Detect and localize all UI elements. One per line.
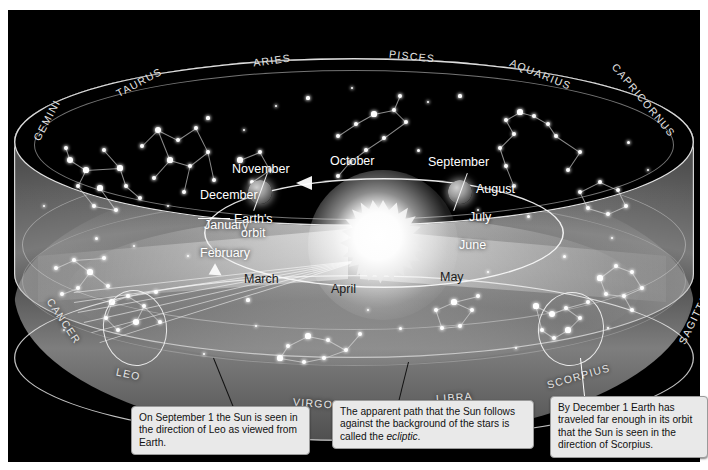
month-label-april: April	[331, 282, 356, 296]
star	[277, 355, 282, 360]
star	[87, 269, 92, 274]
month-label-september: September	[428, 155, 489, 169]
caption-scorpius-text: By December 1 Earth has traveled far eno…	[558, 402, 692, 450]
star	[597, 275, 602, 280]
caption-ecliptic-text-a: The apparent path that the Sun follows a…	[340, 406, 515, 442]
astronomy-diagram: GEMINI TAURUS ARIES PISCES AQUARIUS CAPR…	[8, 10, 700, 462]
star	[640, 286, 644, 290]
month-label-august: August	[476, 182, 515, 196]
star	[546, 122, 550, 126]
month-label-may: May	[440, 270, 464, 284]
star	[140, 144, 144, 148]
month-label-november: November	[232, 162, 290, 176]
month-label-march: March	[244, 272, 279, 286]
star	[322, 356, 326, 360]
star	[336, 174, 340, 178]
caption-ecliptic-term: ecliptic	[386, 431, 417, 442]
star	[155, 127, 161, 133]
star	[95, 237, 98, 240]
caption-leo-text: On September 1 the Sun is seen in the di…	[139, 412, 298, 448]
orbit-direction-arrow-top	[296, 176, 312, 190]
star	[417, 149, 420, 152]
star	[630, 308, 634, 312]
star	[92, 204, 96, 208]
star	[138, 196, 142, 200]
star	[399, 327, 402, 330]
star	[60, 292, 64, 296]
star	[64, 146, 68, 150]
caption-leo: On September 1 the Sun is seen in the di…	[131, 406, 310, 455]
star	[182, 190, 186, 194]
star	[566, 168, 570, 172]
figure-root: GEMINI TAURUS ARIES PISCES AQUARIUS CAPR…	[0, 0, 708, 470]
star	[451, 299, 456, 304]
month-label-july: July	[469, 210, 491, 224]
star	[97, 185, 102, 190]
month-label-february: February	[200, 246, 250, 260]
star	[117, 165, 122, 170]
star	[382, 136, 386, 140]
star	[458, 94, 461, 97]
month-label-december: December	[200, 188, 258, 202]
caption-scorpius: By December 1 Earth has traveled far eno…	[550, 396, 708, 458]
star	[306, 96, 309, 99]
caption-ecliptic: The apparent path that the Sun follows a…	[332, 400, 534, 449]
month-label-june: June	[459, 238, 486, 252]
star	[627, 141, 630, 144]
star	[305, 333, 310, 338]
star	[624, 204, 628, 208]
caption-ecliptic-text-b: .	[418, 431, 421, 442]
earth-orbit-label-line2: orbit	[241, 226, 265, 240]
star	[440, 326, 444, 330]
star	[167, 157, 172, 162]
star	[371, 111, 376, 116]
earth-orbit-label-line1: Earth's	[234, 212, 273, 226]
month-label-october: October	[330, 154, 374, 168]
star	[533, 303, 538, 308]
star	[246, 298, 249, 301]
star	[83, 167, 88, 172]
earth-orbit-leader-line	[198, 218, 230, 219]
star	[563, 255, 566, 258]
earth-orbit-label: Earth's orbit	[234, 212, 273, 240]
star	[517, 109, 522, 114]
star	[206, 116, 209, 119]
